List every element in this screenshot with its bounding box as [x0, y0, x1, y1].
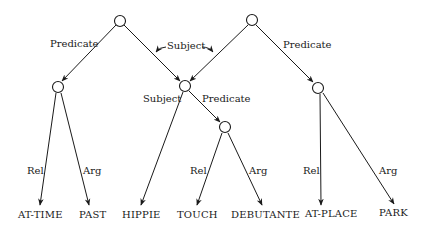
- label-shared-subject: Subject: [167, 40, 205, 51]
- node-n2: [247, 15, 258, 26]
- leaf-touch: TOUCH: [177, 209, 218, 220]
- node-n3: [53, 82, 64, 93]
- leaf-past: PAST: [79, 209, 106, 220]
- subject-pointer-left: [156, 47, 166, 52]
- label-left-arg: Arg: [82, 165, 102, 176]
- label-right-rel: Rel: [303, 165, 320, 176]
- leaf-at-place: AT-PLACE: [304, 208, 358, 219]
- leaf-hippie: HIPPIE: [122, 209, 161, 220]
- node-n6: [313, 83, 324, 94]
- node-n5: [220, 122, 231, 133]
- label-mid-rel: Rel: [190, 165, 207, 176]
- edge-n4-subject: [141, 92, 183, 205]
- label-right-arg: Arg: [378, 165, 398, 176]
- label-mid-predicate: Predicate: [202, 93, 251, 104]
- edge-n6-rel: [320, 94, 321, 205]
- propositional-network-diagram: Predicate Subject Predicate Subject Pred…: [0, 0, 428, 234]
- edge-n2-subject: [190, 25, 248, 81]
- leaf-debutante: DEBUTANTE: [231, 209, 300, 220]
- leaf-park: PARK: [379, 207, 408, 218]
- node-n4: [180, 81, 191, 92]
- edge-n1-subject: [124, 25, 180, 81]
- edge-n3-arg: [61, 93, 89, 205]
- label-mid-arg: Arg: [248, 165, 268, 176]
- edge-n2-predicate: [256, 25, 313, 82]
- label-top-right-predicate: Predicate: [283, 39, 332, 50]
- label-top-left-predicate: Predicate: [50, 38, 99, 49]
- node-n1: [115, 16, 126, 27]
- leaf-at-time: AT-TIME: [17, 209, 63, 220]
- label-left-rel: Rel: [27, 165, 44, 176]
- edge-n6-arg: [323, 93, 394, 204]
- edge-n3-rel: [40, 93, 56, 205]
- label-mid-subject: Subject: [143, 93, 181, 104]
- edge-n1-predicate: [62, 25, 116, 81]
